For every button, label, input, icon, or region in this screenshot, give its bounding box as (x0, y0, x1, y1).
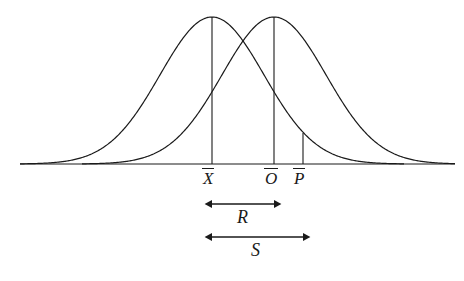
label-dimension-r: R (237, 208, 248, 226)
label-o-bar: O (265, 168, 277, 187)
label-x-bar-text: X (203, 168, 213, 187)
label-o-bar-text: O (265, 168, 277, 187)
label-p-bar: P (294, 168, 304, 187)
label-x-bar: X (203, 168, 213, 187)
figure-canvas (0, 0, 464, 281)
right-normal-curve (82, 17, 455, 164)
label-p-bar-text: P (294, 168, 304, 187)
normal-curves-figure: X O P R S (0, 0, 464, 281)
label-dimension-s: S (251, 241, 260, 259)
